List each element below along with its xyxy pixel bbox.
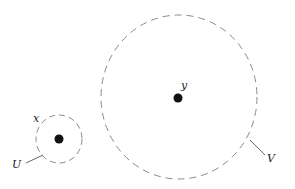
neighborhood-v-label: V <box>267 152 276 165</box>
point-x <box>55 135 64 144</box>
diagram-canvas: x U y V <box>0 0 295 189</box>
neighborhood-v-leader <box>250 140 265 155</box>
point-x-label: x <box>33 112 40 125</box>
point-y <box>174 94 183 103</box>
neighborhood-u-label: U <box>12 158 22 171</box>
neighborhood-u: x U <box>12 112 82 171</box>
point-y-label: y <box>180 79 188 92</box>
neighborhood-u-leader <box>26 155 43 163</box>
neighborhood-v: y V <box>101 15 276 179</box>
